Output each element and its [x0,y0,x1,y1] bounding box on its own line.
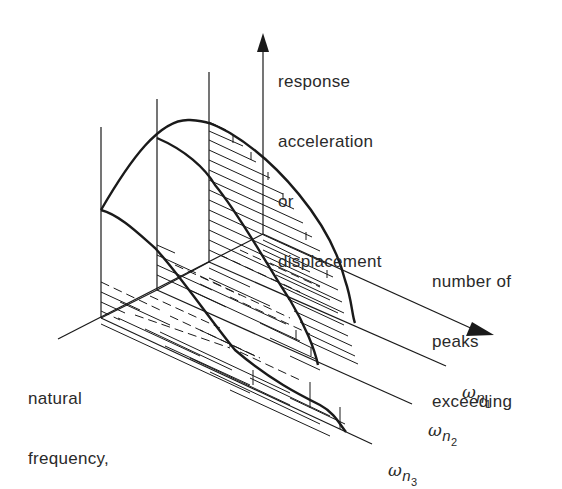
frequency-label-line-1: natural [28,389,109,409]
response-label-line-2: acceleration [278,132,382,152]
response-label-line-4: displacement [278,252,382,272]
slice-1-index: 1 [485,398,491,410]
slice-label-3: ωn3 [378,440,417,482]
slice-label-2: ωn2 [418,400,457,442]
arrow-up-icon [257,33,269,52]
slice-3-index: 3 [411,476,417,488]
peaks-label-line-1: number of [432,272,512,292]
slice-2-index: 2 [451,436,457,448]
slice-baselines [101,262,446,444]
slice-3-omega: ω [388,460,402,480]
slice-1-subscript: n [476,389,485,406]
slice-2-subscript: n [442,427,451,444]
frequency-label-line-2: frequency, [28,449,109,469]
response-axis-label: response acceleration or displacement [278,32,382,292]
slice-2-omega: ω [428,420,442,440]
slice-3-subscript: n [402,467,411,484]
frequency-axis-label: natural frequency, ωn [28,349,109,489]
response-axis [257,33,269,234]
response-label-line-1: response [278,72,382,92]
peaks-label-line-2: peaks [432,332,512,352]
slice-1-omega: ω [462,382,476,402]
response-label-line-3: or [278,192,382,212]
slice-label-1: ωn1 [452,362,491,404]
